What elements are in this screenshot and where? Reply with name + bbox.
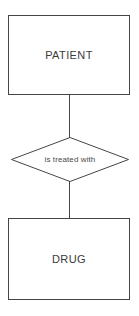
relationship-label: is treated with [11, 137, 129, 182]
er-diagram: PATIENT is treated with DRUG [0, 0, 139, 316]
connector-patient-to-relationship [69, 95, 70, 138]
connector-relationship-to-drug [69, 181, 70, 219]
entity-drug[interactable]: DRUG [8, 218, 130, 300]
entity-patient-label: PATIENT [45, 50, 93, 61]
entity-drug-label: DRUG [52, 254, 86, 265]
entity-patient[interactable]: PATIENT [8, 15, 130, 95]
